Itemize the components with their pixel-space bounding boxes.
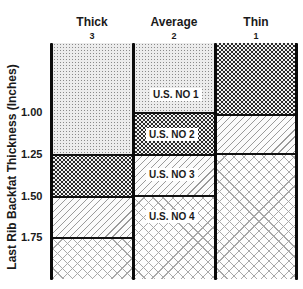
grade-label-us-no2: U.S. NO 2 (146, 128, 198, 141)
thick-us-no2-region (53, 155, 134, 197)
average-boundary-1-50 (135, 195, 216, 197)
grade-label-us-no1: U.S. NO 1 (150, 88, 202, 101)
thick-boundary-1-75 (53, 237, 134, 239)
column-header-thick: Thick (51, 15, 133, 29)
grade-label-us-no3: U.S. NO 3 (146, 168, 198, 181)
thin-us-no3-region (217, 115, 297, 154)
thin-boundary-1-25 (217, 153, 297, 155)
y-axis-label: Last Rib Backfat Thickness (Inches) (5, 62, 21, 272)
thick-us-no1-region (53, 43, 134, 155)
thin-us-no2-region (217, 43, 297, 115)
thick-boundary-1-25 (53, 154, 134, 156)
column-score-thick: 3 (51, 31, 133, 41)
column-score-thin: 1 (215, 31, 297, 41)
column-divider-2 (214, 43, 217, 280)
average-us-no4-region (135, 196, 216, 279)
thick-us-no3-region (53, 197, 134, 238)
column-score-average: 2 (133, 31, 215, 41)
y-tick-1-00: 1.00 (21, 106, 42, 118)
thick-us-no4-region (53, 238, 134, 279)
right-edge-bar (295, 43, 298, 280)
column-header-thin: Thin (215, 15, 297, 29)
average-boundary-1-00 (135, 112, 216, 114)
thin-boundary-1-00 (217, 114, 297, 116)
left-axis-bar (50, 43, 53, 280)
y-tick-1-50: 1.50 (21, 190, 42, 202)
average-us-no1-region (135, 43, 216, 113)
average-boundary-1-25 (135, 154, 216, 156)
thick-boundary-1-50 (53, 196, 134, 198)
y-tick-1-75: 1.75 (21, 231, 42, 243)
grade-label-us-no4: U.S. NO 4 (146, 210, 198, 223)
y-tick-1-25: 1.25 (21, 148, 42, 160)
thin-us-no4-region (217, 154, 297, 279)
column-divider-1 (132, 43, 135, 280)
column-header-average: Average (133, 15, 215, 29)
